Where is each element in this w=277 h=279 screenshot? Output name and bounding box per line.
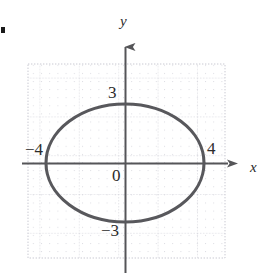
y-axis-label: y: [120, 14, 127, 29]
origin-label: 0: [112, 167, 121, 184]
tick-label-x-negative-4: −4: [25, 141, 43, 158]
graph-figure: y x 3 −3 −4 4 0: [0, 0, 277, 279]
tick-label-y-negative-3: −3: [101, 222, 119, 239]
tick-label-x-4: 4: [207, 140, 216, 157]
x-axis-label: x: [250, 160, 257, 175]
tick-label-y-3: 3: [108, 84, 117, 101]
